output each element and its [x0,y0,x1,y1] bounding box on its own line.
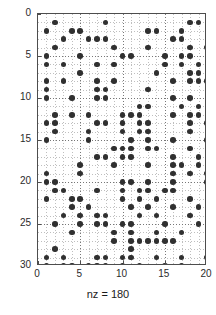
spy-plot-figure: 051015202530 05101520 nz = 180 [0,0,216,315]
grid-line-horizontal [38,90,205,91]
sparsity-dot [170,137,176,143]
sparsity-dot [137,129,143,135]
sparsity-dot [94,213,100,219]
sparsity-dot [69,230,75,236]
sparsity-dot [77,196,83,202]
sparsity-dot [145,137,151,143]
grid-line-vertical [182,14,183,264]
sparsity-dot [154,238,160,244]
sparsity-dot [162,53,168,59]
sparsity-dot [111,162,117,168]
sparsity-dot [120,53,126,59]
sparsity-dot [196,204,202,210]
sparsity-dot [187,129,193,135]
plot-axes [37,13,206,265]
sparsity-dot [145,146,151,152]
sparsity-dot [128,146,134,152]
sparsity-dot [204,171,206,177]
sparsity-dot [204,78,206,84]
sparsity-dot [196,112,202,118]
sparsity-dot [94,154,100,160]
sparsity-dot [94,221,100,227]
sparsity-dot [61,62,67,68]
grid-line-horizontal [38,140,205,141]
sparsity-dot [196,62,202,68]
x-tick-mark [165,261,166,264]
grid-line-vertical [190,14,191,264]
sparsity-dot [69,204,75,210]
sparsity-dot [137,213,143,219]
sparsity-dot [103,154,109,160]
sparsity-dot [128,255,134,261]
sparsity-dot [204,137,206,143]
sparsity-dot [196,221,202,227]
sparsity-dot [111,146,117,152]
sparsity-dot [44,171,50,177]
sparsity-dot [52,20,58,26]
sparsity-dot [137,196,143,202]
x-tick-label: 0 [25,269,49,279]
sparsity-dot [44,78,50,84]
x-tick-label: 10 [110,269,134,279]
grid-line-horizontal [38,174,205,175]
sparsity-dot [77,70,83,76]
y-tick-mark [38,182,41,183]
sparsity-dot [44,95,50,101]
sparsity-dot [52,221,58,227]
x-axis-label: nz = 180 [0,288,216,300]
y-tick-mark [38,98,41,99]
sparsity-dot [61,263,67,265]
sparsity-dot [179,53,185,59]
sparsity-dot [145,104,151,110]
sparsity-dot [145,162,151,168]
sparsity-dot [154,70,160,76]
sparsity-dot [103,36,109,42]
sparsity-dot [128,238,134,244]
sparsity-dot [137,112,143,118]
sparsity-dot [44,62,50,68]
sparsity-dot [154,146,160,152]
sparsity-dot [111,78,117,84]
sparsity-dot [52,129,58,135]
sparsity-dot [145,129,151,135]
x-tick-mark [80,261,81,264]
sparsity-dot [137,120,143,126]
y-tick-label: 25 [0,218,31,228]
y-tick-label: 0 [0,8,31,18]
y-tick-mark [38,14,41,15]
sparsity-dot [61,255,67,261]
sparsity-dot [52,179,58,185]
sparsity-dot [179,28,185,34]
sparsity-dot [145,28,151,34]
sparsity-dot [103,221,109,227]
y-tick-label: 20 [0,176,31,186]
sparsity-dot [196,162,202,168]
sparsity-dot [52,120,58,126]
sparsity-dot [69,112,75,118]
sparsity-dot [170,188,176,194]
grid-line-horizontal [38,241,205,242]
sparsity-dot [128,154,134,160]
grid-line-horizontal [38,73,205,74]
sparsity-dot [103,87,109,93]
sparsity-dot [162,188,168,194]
sparsity-dot [44,255,50,261]
sparsity-dot [103,263,109,265]
sparsity-dot [44,196,50,202]
sparsity-dot [94,188,100,194]
sparsity-dot [94,95,100,101]
sparsity-dot [77,53,83,59]
sparsity-dot [111,45,117,51]
sparsity-dot [69,263,75,265]
y-tick-label: 5 [0,50,31,60]
sparsity-dot [187,45,193,51]
sparsity-dot [69,196,75,202]
sparsity-dot [44,120,50,126]
sparsity-dot [196,154,202,160]
sparsity-dot [204,45,206,51]
sparsity-dot [170,95,176,101]
sparsity-dot [196,20,202,26]
grid-line-horizontal [38,207,205,208]
sparsity-dot [128,179,134,185]
sparsity-dot [52,188,58,194]
